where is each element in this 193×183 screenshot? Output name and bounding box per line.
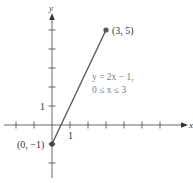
x-tick-label-1: 1: [68, 130, 73, 141]
point-start-label: (0, −1): [17, 139, 44, 151]
line-segment-graph: x 1 y: [0, 0, 193, 183]
y-tick-label-1: 1: [40, 101, 45, 112]
endpoint-end-marker: [103, 27, 108, 32]
equation-annotation-line2: 0 ≤ x ≤ 3: [92, 85, 126, 95]
graph-canvas: x 1 y: [0, 0, 193, 183]
equation-annotation-line1: y = 2x − 1,: [92, 72, 134, 82]
point-end-label: (3, 5): [112, 25, 134, 37]
y-axis-label: y: [48, 3, 53, 13]
endpoint-start-marker: [49, 141, 54, 146]
x-axis-arrow-icon: [181, 122, 188, 127]
y-axis-arrow-icon: [49, 13, 54, 20]
y-axis: y 1: [40, 3, 56, 178]
x-axis: x 1: [4, 120, 193, 141]
x-axis-label: x: [188, 120, 193, 130]
